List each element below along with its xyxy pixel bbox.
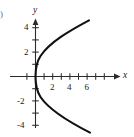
x-axis-label: x: [123, 71, 127, 81]
y-tick-label-neg2: -2: [17, 97, 25, 106]
x-tick-label-2: 2: [50, 83, 55, 92]
x-axis-arrowhead: [114, 74, 121, 80]
coordinate-plot: [0, 0, 134, 137]
y-axis-arrowhead: [33, 19, 39, 26]
y-tick-label-4: 4: [24, 23, 29, 32]
y-axis-label: y: [33, 6, 37, 16]
x-tick-label-4: 4: [67, 83, 72, 92]
y-tick-label-2: 2: [24, 48, 29, 57]
y-tick-label-neg4: -4: [17, 121, 25, 130]
parabola-figure: ): [0, 0, 134, 137]
x-tick-label-6: 6: [85, 83, 90, 92]
